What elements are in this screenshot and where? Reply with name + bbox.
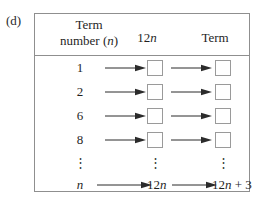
table-row: 8	[35, 128, 249, 152]
ellipsis-col-term: ⋮	[201, 152, 245, 173]
table-row: 6	[35, 104, 249, 128]
answer-box-12n[interactable]	[147, 84, 163, 100]
term-number-suffix: )	[114, 33, 118, 48]
ellipsis-col-12n: ⋮	[135, 152, 175, 173]
answer-box-12n[interactable]	[147, 60, 163, 76]
col2-coefficient: 12	[137, 30, 150, 45]
answer-box-cell-2	[201, 56, 245, 80]
general-term-row: n 12n 12n + 3	[35, 173, 249, 197]
general-expression-term: 12n + 3	[212, 173, 264, 197]
expr2-constant: + 3	[232, 177, 252, 192]
part-label: (d)	[6, 14, 21, 27]
table-header-row: Term number (n) 12n Term	[35, 14, 249, 56]
answer-box-cell-2	[201, 104, 245, 128]
answer-box-cell-2	[201, 80, 245, 104]
arrow-cell-1	[97, 173, 153, 197]
answer-box-cell-1	[135, 104, 175, 128]
answer-box-12n[interactable]	[147, 132, 163, 148]
col2-variable: n	[150, 30, 157, 45]
table-body: 1 2	[35, 56, 249, 191]
answer-box-cell-1	[135, 56, 175, 80]
expr1-variable: n	[160, 177, 167, 192]
answer-box-term[interactable]	[215, 84, 231, 100]
answer-box-term[interactable]	[215, 132, 231, 148]
answer-box-term[interactable]	[215, 60, 231, 76]
expr1-coefficient: 12	[147, 177, 160, 192]
term-number-prefix: number (	[60, 33, 107, 48]
term-table: Term number (n) 12n Term 1	[34, 13, 250, 192]
column-header-term-number-line1: Term	[37, 18, 141, 32]
answer-box-cell-1	[135, 80, 175, 104]
table-row: 2	[35, 80, 249, 104]
column-header-term: Term	[185, 31, 245, 45]
answer-box-12n[interactable]	[147, 108, 163, 124]
right-arrow-icon	[97, 181, 153, 190]
answer-box-cell-1	[135, 128, 175, 152]
table-row: 1	[35, 56, 249, 80]
answer-box-term[interactable]	[215, 108, 231, 124]
expr2-coefficient: 12	[212, 177, 225, 192]
ellipsis-col-term-number: ⋮	[35, 152, 125, 173]
general-term-variable: n	[77, 177, 84, 192]
column-header-12n: 12n	[119, 31, 175, 45]
answer-box-cell-2	[201, 128, 245, 152]
ellipsis-row: ⋮ ⋮ ⋮	[35, 152, 249, 173]
